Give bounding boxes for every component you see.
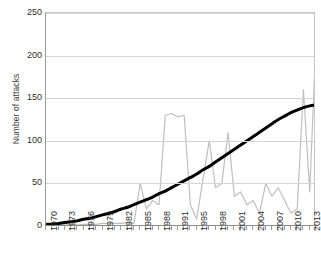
x-axis-tick-label: 1991	[180, 211, 190, 231]
x-axis-tick-label: 1970	[49, 211, 59, 231]
x-axis-tick	[177, 226, 178, 230]
y-axis-tick-labels: 050100150200250	[8, 0, 42, 265]
x-axis-tick-label: 1985	[143, 211, 153, 231]
plot-area	[45, 12, 315, 225]
chart-container: Number of attacks 050100150200250 197019…	[0, 0, 321, 265]
x-axis-tick	[215, 226, 216, 230]
x-axis-tick	[120, 226, 121, 230]
gridline	[46, 56, 314, 57]
gridline	[46, 98, 314, 99]
x-axis-tick-label: 1995	[199, 211, 209, 231]
y-axis-tick-label: 100	[27, 135, 42, 145]
y-axis-tick-label: 150	[27, 92, 42, 102]
x-axis-tick-label: 2004	[256, 211, 266, 231]
x-axis-tick-label: 1988	[162, 211, 172, 231]
x-axis-tick	[45, 226, 46, 230]
gridline	[46, 141, 314, 142]
data-line	[46, 39, 315, 225]
x-axis-tick	[83, 226, 84, 230]
y-axis-tick-label: 50	[32, 177, 42, 187]
gridline	[46, 13, 314, 14]
x-axis-tick	[139, 226, 140, 230]
y-axis-tick-label: 0	[37, 220, 42, 230]
x-axis-tick	[233, 226, 234, 230]
x-axis-tick-label: 1982	[124, 211, 134, 231]
x-axis-tick-label: 1973	[67, 211, 77, 231]
x-axis-tick	[252, 226, 253, 230]
x-axis-tick-label: 1979	[105, 211, 115, 231]
x-axis-tick-labels: 1970197319761979198219851988199119951998…	[45, 231, 315, 265]
x-axis-tick-label: 1998	[218, 211, 228, 231]
x-axis-tick	[196, 226, 197, 230]
gridline	[46, 183, 314, 184]
x-axis-tick-label: 1976	[86, 211, 96, 231]
x-axis-tick-label: 2001	[237, 211, 247, 231]
y-axis-tick-label: 200	[27, 50, 42, 60]
trend-line	[46, 105, 315, 224]
x-axis-tick	[290, 226, 291, 230]
x-axis-tick	[102, 226, 103, 230]
x-axis-tick-label: 2007	[275, 211, 285, 231]
x-axis-tick	[64, 226, 65, 230]
x-axis-tick	[271, 226, 272, 230]
x-axis-tick-label: 2013	[312, 211, 321, 231]
y-axis-tick-label: 250	[27, 7, 42, 17]
chart-series-layer	[46, 13, 315, 225]
x-axis-tick	[309, 226, 310, 230]
x-axis-tick-label: 2010	[293, 211, 303, 231]
x-axis-tick	[158, 226, 159, 230]
